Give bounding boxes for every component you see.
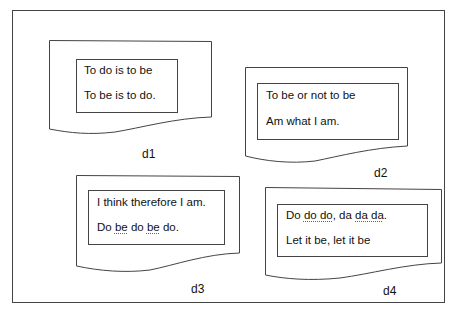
segment: do. (160, 221, 179, 233)
segment: do (128, 221, 147, 233)
underlined-word: be (115, 221, 128, 233)
doc-d4-line-2: Let it be, let it be (286, 233, 370, 247)
segment: , da (333, 209, 355, 221)
underlined-word: da da (355, 209, 384, 221)
segment: Do (97, 221, 115, 233)
doc-d3-line-2: Do be do be do. (97, 220, 179, 234)
underlined-word: do do (304, 209, 333, 221)
segment: Do (286, 209, 304, 221)
doc-d2-label: d2 (374, 166, 387, 180)
doc-d1-line-1: To do is to be (84, 63, 152, 77)
doc-d2-line-1: To be or not to be (266, 88, 356, 102)
diagram-canvas (0, 0, 453, 314)
doc-d1-line-2: To be is to do. (84, 88, 156, 102)
doc-d4-label: d4 (383, 284, 396, 298)
underlined-word: be (147, 221, 160, 233)
doc-d4-line-1: Do do do, da da da. (286, 208, 387, 222)
doc-d3-label: d3 (191, 282, 204, 296)
doc-d3-line-1: I think therefore I am. (97, 195, 206, 209)
segment: . (384, 209, 387, 221)
doc-d2-line-2: Am what I am. (266, 114, 340, 128)
doc-d1-label: d1 (142, 147, 155, 161)
